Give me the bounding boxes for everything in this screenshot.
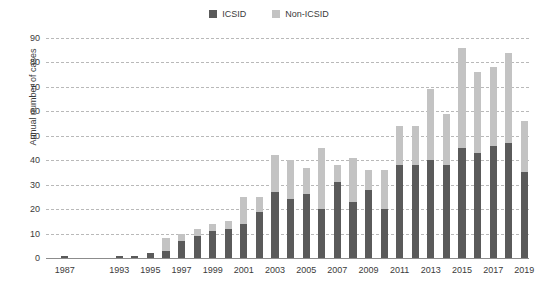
bar-1993[interactable] [116, 38, 123, 258]
x-axis-tick-label: 2011 [390, 265, 409, 275]
bar-2010[interactable] [381, 38, 388, 258]
bar-segment-icsid [396, 165, 403, 258]
x-axis-tick-label: 2015 [452, 265, 472, 275]
y-axis-tick-label: 80 [30, 57, 40, 67]
bar-segment-icsid [303, 194, 310, 258]
bar-segment-non-icsid [381, 170, 388, 209]
x-axis-tick-label: 2017 [483, 265, 503, 275]
bar-segment-non-icsid [396, 126, 403, 165]
bar-segment-icsid [505, 143, 512, 258]
bar-2003[interactable] [271, 38, 278, 258]
bar-segment-icsid [412, 165, 419, 258]
bar-2006[interactable] [318, 38, 325, 258]
bar-2001[interactable] [240, 38, 247, 258]
bar-segment-icsid [365, 190, 372, 258]
x-axis-tick-label: 2005 [296, 265, 316, 275]
bar-2015[interactable] [458, 38, 465, 258]
bar-segment-non-icsid [225, 221, 232, 228]
bar-1994[interactable] [131, 38, 138, 258]
bar-segment-non-icsid [256, 197, 263, 212]
bar-segment-icsid [178, 241, 185, 258]
legend-item-icsid: ICSID [209, 9, 246, 19]
bar-segment-non-icsid [334, 165, 341, 182]
y-axis: Annual number of cases 01020304050607080… [0, 0, 46, 295]
bar-segment-non-icsid [162, 238, 169, 250]
plot-area [46, 38, 529, 258]
bar-1995[interactable] [147, 38, 154, 258]
bar-series-group [46, 38, 529, 258]
y-axis-tick-label: 90 [30, 33, 40, 43]
bar-2009[interactable] [365, 38, 372, 258]
bar-segment-non-icsid [271, 155, 278, 192]
x-axis-tick-label: 1995 [140, 265, 160, 275]
bar-2011[interactable] [396, 38, 403, 258]
bar-segment-icsid [209, 231, 216, 258]
bar-segment-non-icsid [412, 126, 419, 165]
legend-label: Non-ICSID [285, 9, 329, 19]
bar-segment-non-icsid [443, 114, 450, 165]
bar-1997[interactable] [178, 38, 185, 258]
bar-2002[interactable] [256, 38, 263, 258]
bar-2008[interactable] [349, 38, 356, 258]
bar-2016[interactable] [474, 38, 481, 258]
bar-segment-icsid [334, 182, 341, 258]
bar-2018[interactable] [505, 38, 512, 258]
bar-2005[interactable] [303, 38, 310, 258]
bar-segment-non-icsid [209, 224, 216, 231]
bar-segment-non-icsid [178, 234, 185, 241]
bar-2019[interactable] [521, 38, 528, 258]
bar-segment-non-icsid [427, 89, 434, 160]
bar-2004[interactable] [287, 38, 294, 258]
bar-segment-non-icsid [194, 229, 201, 236]
bar-segment-non-icsid [505, 53, 512, 143]
bar-segment-icsid [240, 224, 247, 258]
bar-segment-icsid [490, 146, 497, 258]
x-axis-tick-label: 2001 [234, 265, 254, 275]
bar-segment-non-icsid [365, 170, 372, 190]
bar-segment-non-icsid [240, 197, 247, 224]
bar-2013[interactable] [427, 38, 434, 258]
bar-segment-non-icsid [349, 158, 356, 202]
bar-segment-non-icsid [287, 160, 294, 199]
bar-1998[interactable] [194, 38, 201, 258]
chart-container: ICSIDNon-ICSID Annual number of cases 01… [0, 0, 538, 295]
legend-item-non-icsid: Non-ICSID [272, 9, 329, 19]
x-axis: 1987199319951997199920012003200520072009… [46, 262, 529, 284]
legend-label: ICSID [222, 9, 246, 19]
y-axis-tick-label: 0 [35, 253, 40, 263]
bar-2014[interactable] [443, 38, 450, 258]
y-axis-tick-label: 40 [30, 155, 40, 165]
bar-segment-icsid [349, 202, 356, 258]
legend-square-swatch [272, 10, 280, 18]
bar-segment-icsid [162, 251, 169, 258]
x-axis-tick-label: 1997 [172, 265, 192, 275]
bar-segment-icsid [318, 209, 325, 258]
x-axis-tick-label: 2007 [327, 265, 347, 275]
bar-1987[interactable] [61, 38, 68, 258]
y-axis-tick-label: 30 [30, 180, 40, 190]
x-axis-tick-label: 1999 [203, 265, 223, 275]
bar-segment-icsid [287, 199, 294, 258]
bar-2017[interactable] [490, 38, 497, 258]
bar-segment-icsid [256, 212, 263, 258]
x-axis-tick-label: 1987 [55, 265, 75, 275]
x-axis-tick-label: 1993 [109, 265, 129, 275]
x-axis-line [46, 258, 529, 259]
bar-segment-icsid [443, 165, 450, 258]
bar-segment-icsid [521, 172, 528, 258]
x-axis-tick-label: 2013 [421, 265, 441, 275]
bar-2000[interactable] [225, 38, 232, 258]
bar-2012[interactable] [412, 38, 419, 258]
bar-1999[interactable] [209, 38, 216, 258]
bar-segment-icsid [225, 229, 232, 258]
bar-segment-non-icsid [490, 67, 497, 145]
bar-1996[interactable] [162, 38, 169, 258]
y-axis-tick-label: 60 [30, 106, 40, 116]
bar-segment-non-icsid [458, 48, 465, 148]
bar-segment-icsid [381, 209, 388, 258]
x-axis-tick-label: 2009 [359, 265, 379, 275]
bar-segment-non-icsid [318, 148, 325, 209]
y-axis-tick-label: 70 [30, 82, 40, 92]
bar-segment-non-icsid [474, 72, 481, 153]
bar-2007[interactable] [334, 38, 341, 258]
